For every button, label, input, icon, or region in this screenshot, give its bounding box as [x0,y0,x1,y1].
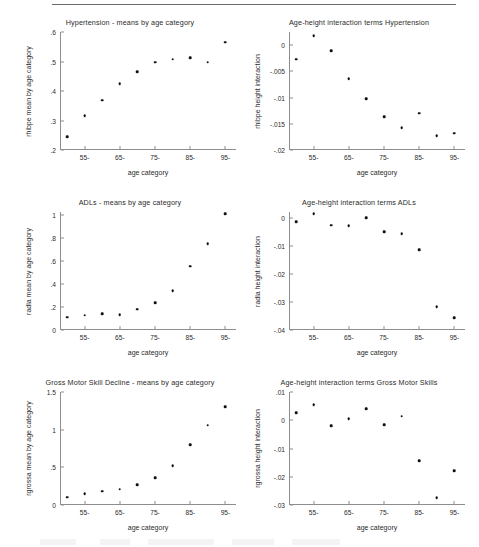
data-point [295,411,298,414]
y-tick-mark [61,307,64,308]
data-point [154,477,157,480]
x-tick-label: 55- [309,334,319,341]
y-tick-label: -.005 [270,68,289,75]
x-tick-mark [384,501,385,504]
header-divider [52,4,456,5]
y-tick-mark [290,150,293,151]
y-tick-mark [290,448,293,449]
data-point [119,488,122,491]
y-tick-label: .01 [276,389,289,396]
data-point [418,248,421,251]
y-tick-mark [290,476,293,477]
data-point [365,408,368,411]
chart-title: ADLs - means by age category [14,198,246,207]
data-point [224,212,227,215]
y-axis-label: rhibpe mean by age category [22,32,34,150]
x-tick-mark [119,146,120,149]
data-point [66,316,69,319]
y-tick-mark [61,32,64,33]
y-tick-mark [290,274,293,275]
x-tick-mark [313,326,314,329]
data-point [400,127,403,130]
data-point [83,115,86,118]
data-point [348,77,351,80]
x-tick-mark [384,326,385,329]
x-tick-label: 85- [185,334,195,341]
data-point [453,469,456,472]
y-tick-mark [290,302,293,303]
chart-panel-bottom-right: Age-height interaction terms Gross Motor… [243,372,475,547]
y-axis-line [289,32,290,150]
x-tick-label: 95- [221,334,231,341]
y-tick-mark [61,150,64,151]
y-axis-line [60,392,61,505]
y-tick-label: -.02 [274,147,289,154]
x-tick-label: 65- [115,334,125,341]
x-tick-label: 65- [115,509,125,516]
data-point [83,492,86,495]
y-axis-label-text: rhibpe height interaction [254,54,261,129]
x-axis-label: age category [289,349,465,356]
x-tick-label: 55- [80,154,90,161]
y-tick-mark [290,330,293,331]
y-axis-label: radla mean by age category [22,212,34,330]
y-tick-label: .4 [51,281,61,288]
y-tick-mark [61,215,64,216]
x-tick-label: 55- [80,509,90,516]
x-tick-label: 65- [344,509,354,516]
x-axis-label: age category [60,524,236,531]
plot-area: 0-.01-.02-.03-.0455-65-75-85-95- [289,212,465,330]
x-tick-label: 95- [450,154,460,161]
x-tick-mark [84,501,85,504]
chart-panel-top-left: Hypertension - means by age categoryrhib… [14,12,246,192]
y-tick-label: -.03 [274,502,289,509]
data-point [136,71,139,74]
x-tick-mark [190,501,191,504]
y-tick-label: 0 [281,215,289,222]
data-point [383,116,386,119]
data-point [101,313,104,316]
x-tick-label: 55- [80,334,90,341]
y-tick-label: .6 [51,258,61,265]
data-point [207,243,210,246]
y-axis-label: rgrossa height interaction [251,392,263,505]
y-tick-mark [290,246,293,247]
data-point [189,57,192,60]
y-tick-label: .6 [51,29,61,36]
chart-panel-middle-right: Age-height interaction terms ADLsradla h… [243,192,475,372]
data-point [453,132,456,135]
x-tick-mark [155,326,156,329]
y-tick-mark [61,467,64,468]
x-tick-label: 75- [379,509,389,516]
x-tick-mark [155,146,156,149]
y-tick-label: -.04 [274,327,289,334]
x-tick-label: 65- [115,154,125,161]
y-tick-label: -.02 [274,473,289,480]
x-axis-line [60,149,236,150]
x-axis-label: age category [60,169,236,176]
y-tick-label: -.01 [274,445,289,452]
x-tick-mark [84,326,85,329]
x-tick-mark [190,326,191,329]
data-point [383,230,386,233]
data-point [154,61,157,64]
y-tick-mark [290,97,293,98]
y-tick-label: .2 [51,304,61,311]
x-tick-label: 95- [450,509,460,516]
data-point [154,301,157,304]
data-point [330,425,333,428]
data-point [365,97,368,100]
data-point [436,497,439,500]
chart-title: Age-height interaction terms Hypertensio… [243,18,475,27]
chart-title: Hypertension - means by age category [14,18,246,27]
y-tick-label: -.015 [270,120,289,127]
data-point [136,308,139,311]
x-tick-mark [419,501,420,504]
data-point [171,58,174,61]
data-point [66,496,69,499]
y-tick-mark [61,120,64,121]
data-point [312,34,315,37]
x-tick-mark [454,326,455,329]
x-tick-mark [190,146,191,149]
data-point [312,212,315,215]
